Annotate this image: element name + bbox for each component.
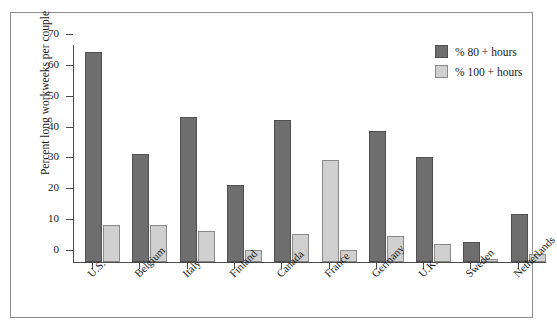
- legend-item: % 100 + hours: [435, 63, 523, 80]
- figure-frame: Percent long workweeks per couple 010203…: [10, 12, 533, 318]
- y-axis-tick: [66, 157, 73, 158]
- bar-series-80-hours: [416, 157, 433, 262]
- y-axis-tick-label: 20: [11, 182, 59, 193]
- legend-item: % 80 + hours: [435, 43, 523, 60]
- bar-series-80-hours: [322, 160, 339, 262]
- bar-series-100-hours: [198, 231, 215, 262]
- y-axis-tick-label: 40: [11, 121, 59, 132]
- y-axis-tick-label: 70: [11, 28, 59, 39]
- legend-label: % 80 + hours: [455, 46, 517, 58]
- bar-series-80-hours: [85, 52, 102, 262]
- y-axis-tick: [66, 65, 73, 66]
- legend-swatch: [435, 45, 448, 58]
- y-axis-tick: [66, 34, 73, 35]
- bar-series-80-hours: [227, 185, 244, 262]
- y-axis-tick-label: 50: [11, 90, 59, 101]
- y-axis-tick-label: 30: [11, 151, 59, 162]
- bar-series-80-hours: [511, 214, 528, 262]
- y-axis-tick-label: 60: [11, 59, 59, 70]
- bar-series-100-hours: [434, 244, 451, 263]
- y-axis-tick: [66, 96, 73, 97]
- legend-swatch: [435, 65, 448, 78]
- y-axis-tick-label: 0: [11, 244, 59, 255]
- legend-label: % 100 + hours: [455, 66, 523, 78]
- bar-series-80-hours: [274, 120, 291, 262]
- y-axis-tick: [66, 127, 73, 128]
- y-axis-tick: [66, 250, 73, 251]
- chart-legend: % 80 + hours% 100 + hours: [435, 43, 523, 83]
- bar-series-80-hours: [180, 117, 197, 262]
- y-axis-tick: [66, 188, 73, 189]
- y-axis-tick-label: 10: [11, 213, 59, 224]
- bar-series-80-hours: [369, 131, 386, 262]
- y-axis-tick: [66, 219, 73, 220]
- bar-series-100-hours: [103, 225, 120, 262]
- bar-series-80-hours: [132, 154, 149, 262]
